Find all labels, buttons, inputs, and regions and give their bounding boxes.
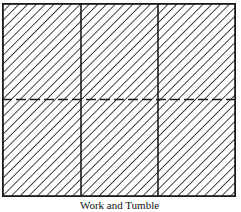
imposition-sheet — [2, 3, 236, 197]
diagram-caption: Work and Tumble — [0, 199, 239, 211]
